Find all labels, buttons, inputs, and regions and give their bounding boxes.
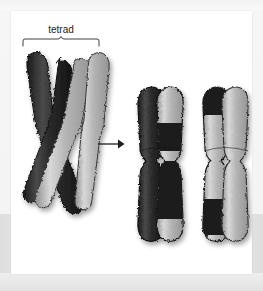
page-margin-top (0, 0, 263, 10)
figure-panel: tetrad (11, 11, 252, 274)
tetrad-bracket (23, 37, 99, 47)
figure-root: tetrad (0, 0, 263, 291)
recombinant-left-chromatid-banded (155, 87, 189, 242)
stage-tetrad (23, 52, 109, 214)
stage-recombinant-right (201, 83, 248, 242)
band-dark-upper (155, 123, 189, 151)
stage-recombinant-left (138, 87, 189, 242)
tetrad-label: tetrad (48, 24, 74, 35)
page-margin-bottom-band (0, 273, 263, 291)
band-dark-lower (155, 161, 189, 219)
recombinant-right-chromatid-light (222, 87, 248, 242)
figure-illustration: tetrad (11, 11, 252, 274)
transition-arrow (98, 140, 125, 149)
